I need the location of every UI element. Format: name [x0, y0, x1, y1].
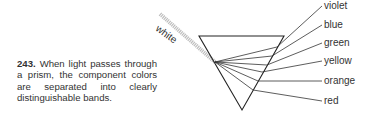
white-label: white [153, 22, 180, 45]
band-label-green: green [324, 37, 350, 48]
band-label-red: red [324, 95, 338, 106]
band-label-orange: orange [324, 75, 356, 86]
prism-triangle [199, 36, 284, 110]
internal-rays [215, 47, 277, 90]
prism-diagram: white violet blue green yellow orange re… [0, 0, 370, 117]
band-label-blue: blue [324, 19, 343, 30]
band-label-yellow: yellow [324, 55, 353, 66]
exit-rays [253, 6, 322, 101]
band-label-violet: violet [324, 0, 348, 11]
